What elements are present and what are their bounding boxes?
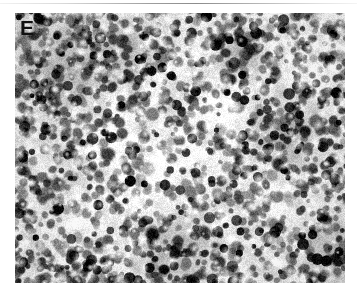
micrograph-image: E <box>15 13 345 283</box>
figure-top-rule <box>0 3 357 4</box>
micrograph-canvas <box>15 13 345 283</box>
panel-letter-label: E <box>20 17 34 38</box>
figure-panel-root: E <box>0 0 357 296</box>
